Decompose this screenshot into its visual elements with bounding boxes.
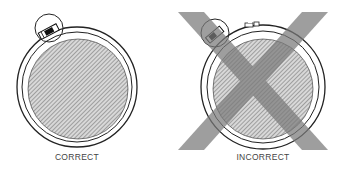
correct-figure [17,14,137,147]
incorrect-figure [178,12,328,150]
ring-notch [245,18,259,27]
hatched-disc [28,39,128,139]
diagram-canvas [0,0,353,173]
incorrect-caption: INCORRECT [228,152,298,162]
correct-caption: CORRECT [47,152,107,162]
